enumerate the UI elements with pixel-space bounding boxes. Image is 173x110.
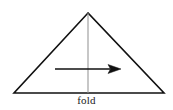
fold-diagram-figure: fold [0, 0, 173, 110]
triangle-outline [14, 13, 164, 93]
fold-label: fold [0, 94, 173, 107]
